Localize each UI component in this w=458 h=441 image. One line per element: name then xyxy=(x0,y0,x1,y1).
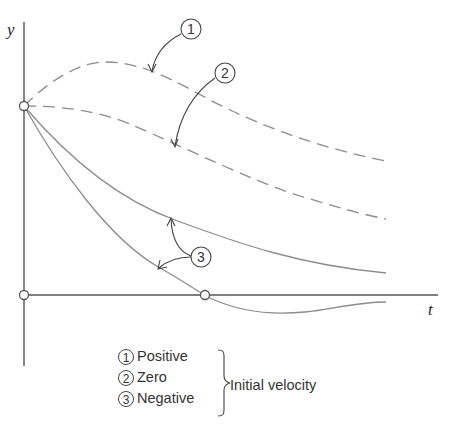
callout-1: 1 xyxy=(181,19,201,39)
callout-2-label: 2 xyxy=(221,65,229,81)
curve-zero xyxy=(24,106,386,219)
origin-marker xyxy=(20,291,29,300)
callout-3: 3 xyxy=(191,247,211,267)
legend-label-positive: Positive xyxy=(137,346,188,367)
legend-number-2: 2 xyxy=(118,370,134,386)
diagram-canvas: 1 2 3 y t xyxy=(0,0,458,441)
callout-1-label: 1 xyxy=(187,21,195,37)
pointer-arrow-2 xyxy=(175,78,215,146)
callout-2: 2 xyxy=(215,63,235,83)
legend-number-1: 1 xyxy=(118,349,134,365)
y-axis-label: y xyxy=(5,20,15,39)
initial-point-marker xyxy=(20,102,29,111)
legend: 1 Positive 2 Zero 3 Negative xyxy=(118,346,194,409)
pointer-arrow-3b xyxy=(159,257,191,268)
legend-group-label: Initial velocity xyxy=(230,377,316,393)
curve-negative-crossing xyxy=(24,106,386,313)
legend-number-3: 3 xyxy=(118,391,134,407)
legend-item-zero: 2 Zero xyxy=(118,367,194,388)
legend-label-negative: Negative xyxy=(137,388,194,409)
legend-brace xyxy=(218,350,230,416)
legend-item-positive: 1 Positive xyxy=(118,346,194,367)
pointer-arrow-1 xyxy=(152,34,181,71)
curve-positive xyxy=(24,62,386,161)
legend-label-zero: Zero xyxy=(137,367,167,388)
crossing-point-marker xyxy=(201,291,210,300)
callout-3-label: 3 xyxy=(197,249,205,265)
t-axis-label: t xyxy=(428,300,434,319)
legend-item-negative: 3 Negative xyxy=(118,388,194,409)
